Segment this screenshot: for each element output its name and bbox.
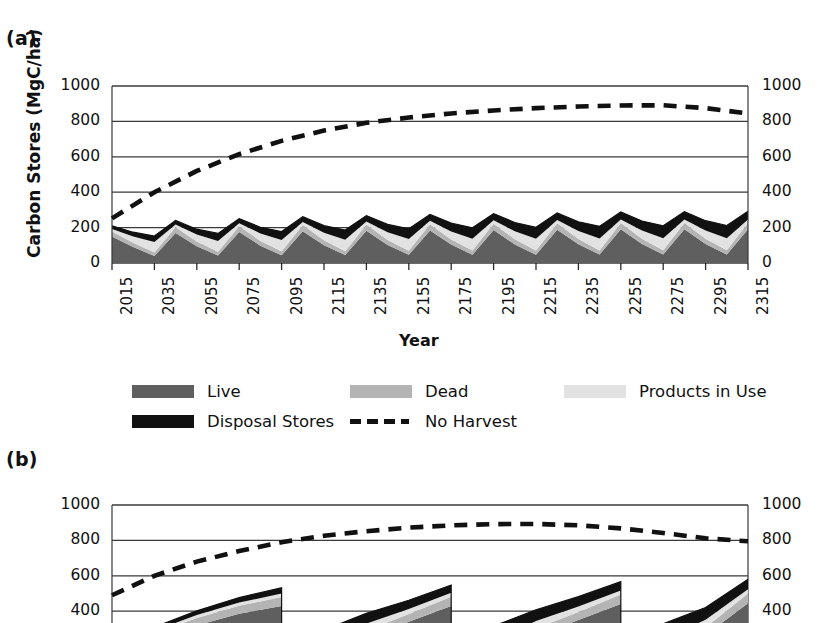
y-tick-label-left: 800: [44, 530, 100, 548]
legend-item-disposal-stores[interactable]: Disposal Stores: [132, 406, 334, 436]
y-tick-label-left: 600: [44, 147, 100, 165]
legend-row: Disposal StoresNo Harvest: [132, 406, 821, 436]
x-tick-label: 2255: [627, 277, 645, 315]
legend-swatch-products-in-use: [564, 385, 626, 398]
legend-swatch-no-harvest: [350, 415, 412, 428]
x-tick-label: 2235: [584, 277, 602, 315]
y-tick-label-left: 200: [44, 218, 100, 236]
x-tick-label: 2095: [288, 277, 306, 315]
panel-b: (b) tores (MgC/ha) 400400600600800800100…: [0, 440, 821, 623]
x-tick-label: 2275: [669, 277, 687, 315]
x-tick-label: 2175: [457, 277, 475, 315]
panel-a: (a) Carbon Stores (MgC/ha) Year 00200200…: [0, 0, 821, 440]
x-axis-title: Year: [399, 331, 439, 350]
legend-item-live[interactable]: Live: [132, 376, 241, 406]
y-tick-label-left: 400: [44, 601, 100, 619]
y-tick-label-right: 1000: [762, 76, 821, 94]
legend-label-disposal-stores: Disposal Stores: [207, 412, 334, 431]
legend-label-products-in-use: Products in Use: [639, 382, 767, 401]
x-tick-label: 2215: [542, 277, 560, 315]
x-tick-label: 2055: [203, 277, 221, 315]
legend-item-dead[interactable]: Dead: [350, 376, 468, 406]
legend-row: LiveDeadProducts in Use: [132, 376, 821, 406]
y-tick-label-right: 800: [762, 530, 821, 548]
y-tick-label-right: 800: [762, 111, 821, 129]
y-tick-label-left: 0: [44, 253, 100, 271]
y-tick-label-right: 600: [762, 566, 821, 584]
y-tick-label-right: 1000: [762, 495, 821, 513]
x-tick-label: 2315: [754, 277, 772, 315]
x-tick-label: 2115: [330, 277, 348, 315]
legend-swatch-disposal-stores: [132, 415, 194, 428]
y-tick-label-left: 400: [44, 182, 100, 200]
y-tick-label-left: 1000: [44, 76, 100, 94]
y-tick-label-right: 400: [762, 601, 821, 619]
y-tick-label-right: 600: [762, 147, 821, 165]
legend-label-dead: Dead: [425, 382, 468, 401]
panel-b-plot: [0, 440, 821, 623]
legend-label-live: Live: [207, 382, 241, 401]
x-tick-label: 2015: [118, 277, 136, 315]
x-tick-label: 2135: [372, 277, 390, 315]
x-tick-label: 2035: [160, 277, 178, 315]
legend-label-no-harvest: No Harvest: [425, 412, 517, 431]
x-tick-label: 2195: [500, 277, 518, 315]
x-tick-label: 2295: [712, 277, 730, 315]
y-tick-label-right: 400: [762, 182, 821, 200]
legend-item-products-in-use[interactable]: Products in Use: [564, 376, 767, 406]
y-tick-label-left: 800: [44, 111, 100, 129]
legend-swatch-live: [132, 385, 194, 398]
y-tick-label-left: 1000: [44, 495, 100, 513]
panel-a-plot: [0, 0, 821, 440]
y-tick-label-right: 200: [762, 218, 821, 236]
y-tick-label-right: 0: [762, 253, 821, 271]
legend-item-no-harvest[interactable]: No Harvest: [350, 406, 517, 436]
x-tick-label: 2075: [245, 277, 263, 315]
legend-swatch-dead: [350, 385, 412, 398]
x-tick-label: 2155: [415, 277, 433, 315]
legend: LiveDeadProducts in Use Disposal StoresN…: [132, 376, 821, 436]
y-tick-label-left: 600: [44, 566, 100, 584]
